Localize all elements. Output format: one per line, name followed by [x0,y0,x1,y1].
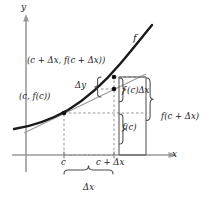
curve-label-f: f [133,33,137,43]
point-c-plus-delta-x [112,75,117,80]
label-f-of-c-plus-delta-x: f(c + Δx) [161,112,199,121]
label-point-c-f-of-c: (c, f(c)) [19,92,50,101]
point-on-tangent-line [112,87,117,92]
derivative-diagram: y x f (c + Δx, f(c + Δx)) (c, f(c)) Δy f… [0,0,218,201]
label-brace-delta-x: Δx [83,183,94,192]
point-c-f-of-c [62,111,67,116]
label-f-prime-delta-x: f′(c)Δx [122,86,149,95]
label-f-of-c: f(c) [122,123,137,132]
y-axis-label: y [21,3,26,12]
x-tick-label-c: c [61,158,66,167]
label-point-c-plus-delta-x: (c + Δx, f(c + Δx)) [27,56,105,65]
x-tick-label-c-plus-delta-x: c + Δx [96,158,124,167]
label-delta-y: Δy [75,81,86,90]
y-axis-arrowhead [23,14,29,22]
x-axis-label: x [172,150,177,159]
